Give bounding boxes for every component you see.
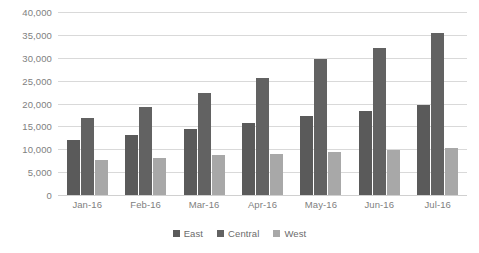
bar-central-jul-16[interactable] <box>431 33 444 195</box>
x-axis: Jan-16Feb-16Mar-16Apr-16May-16Jun-16Jul-… <box>58 199 467 210</box>
y-tick-label: 35,000 <box>22 29 52 40</box>
chart-legend: EastCentralWest <box>0 228 479 239</box>
bar-group <box>233 12 291 195</box>
x-tick-label: Jan-16 <box>58 199 116 210</box>
bar-group <box>350 12 408 195</box>
y-axis: 05,00010,00015,00020,00025,00030,00035,0… <box>0 12 52 195</box>
x-tick-label: Apr-16 <box>233 199 291 210</box>
legend-swatch-east <box>173 230 180 237</box>
x-tick-label: Mar-16 <box>175 199 233 210</box>
x-tick-label: Jul-16 <box>409 199 467 210</box>
bar-central-may-16[interactable] <box>314 59 327 195</box>
bar-group <box>116 12 174 195</box>
bar-central-apr-16[interactable] <box>256 78 269 195</box>
legend-swatch-west <box>273 230 280 237</box>
legend-item-central[interactable]: Central <box>217 228 259 239</box>
bar-east-apr-16[interactable] <box>242 123 255 195</box>
bar-west-may-16[interactable] <box>328 152 341 195</box>
legend-item-west[interactable]: West <box>273 228 306 239</box>
bar-east-feb-16[interactable] <box>125 135 138 195</box>
y-tick-label: 0 <box>47 190 52 201</box>
bar-central-jun-16[interactable] <box>373 48 386 195</box>
bar-group <box>58 12 116 195</box>
bar-west-jan-16[interactable] <box>95 160 108 195</box>
x-tick-label: May-16 <box>292 199 350 210</box>
bar-east-jul-16[interactable] <box>417 105 430 195</box>
bar-central-jan-16[interactable] <box>81 118 94 195</box>
y-tick-label: 5,000 <box>28 167 52 178</box>
bar-east-jan-16[interactable] <box>67 140 80 195</box>
legend-label: West <box>284 228 306 239</box>
bar-chart: 05,00010,00015,00020,00025,00030,00035,0… <box>0 0 479 253</box>
y-tick-label: 40,000 <box>22 7 52 18</box>
bar-group <box>175 12 233 195</box>
bars-layer <box>58 12 467 195</box>
y-tick-label: 30,000 <box>22 52 52 63</box>
bar-group <box>409 12 467 195</box>
bar-central-mar-16[interactable] <box>198 93 211 195</box>
y-tick-label: 15,000 <box>22 121 52 132</box>
bar-east-jun-16[interactable] <box>359 111 372 195</box>
bar-west-jul-16[interactable] <box>445 148 458 195</box>
y-tick-label: 10,000 <box>22 144 52 155</box>
legend-label: Central <box>228 228 259 239</box>
bar-east-may-16[interactable] <box>300 116 313 195</box>
bar-group <box>292 12 350 195</box>
bar-west-feb-16[interactable] <box>153 158 166 196</box>
bar-west-mar-16[interactable] <box>212 155 225 195</box>
y-tick-label: 25,000 <box>22 75 52 86</box>
bar-west-jun-16[interactable] <box>387 150 400 195</box>
y-tick-label: 20,000 <box>22 98 52 109</box>
bar-west-apr-16[interactable] <box>270 154 283 195</box>
legend-swatch-central <box>217 230 224 237</box>
legend-item-east[interactable]: East <box>173 228 203 239</box>
bar-central-feb-16[interactable] <box>139 107 152 195</box>
bar-east-mar-16[interactable] <box>184 129 197 195</box>
x-tick-label: Jun-16 <box>350 199 408 210</box>
x-tick-label: Feb-16 <box>116 199 174 210</box>
plot-area <box>58 12 467 195</box>
legend-label: East <box>184 228 203 239</box>
gridline <box>58 195 467 196</box>
